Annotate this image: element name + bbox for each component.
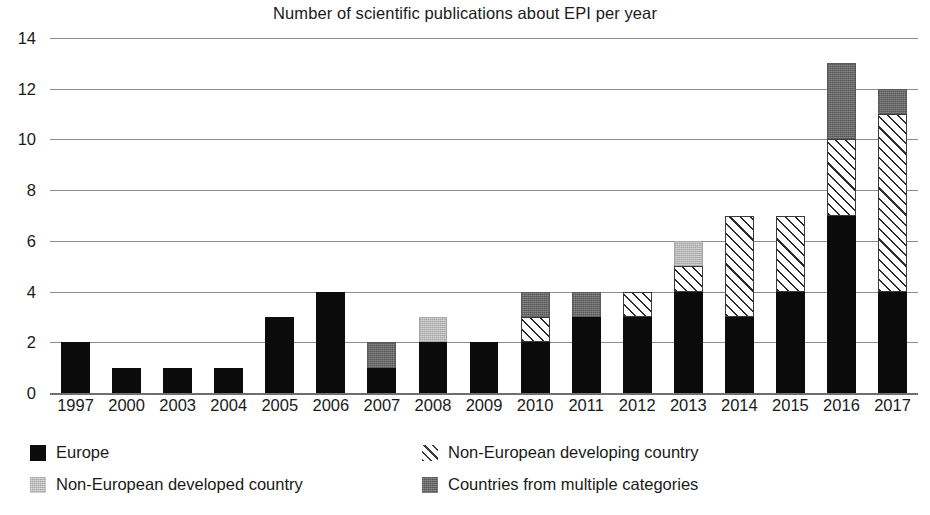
bar-2004[interactable] — [214, 368, 243, 393]
x-axis-tick-2013: 2013 — [663, 396, 714, 422]
bar-2016[interactable] — [827, 63, 856, 393]
bar-segment-developing-2017 — [878, 114, 907, 292]
x-axis-tick-1997: 1997 — [50, 396, 101, 422]
bar-segment-europe-2017 — [878, 292, 907, 393]
x-axis-tick-2014: 2014 — [714, 396, 765, 422]
x-axis-tick-2004: 2004 — [203, 396, 254, 422]
y-axis-tick-4: 4 — [27, 282, 36, 301]
bar-segment-europe-2013 — [674, 292, 703, 393]
legend-item-non-european-developed-country: Non-European developed country — [30, 475, 303, 494]
x-axis-tick-2003: 2003 — [152, 396, 203, 422]
bar-segment-europe-2005 — [265, 317, 294, 393]
bar-segment-developing-2012 — [623, 292, 652, 317]
x-axis-tick-2017: 2017 — [867, 396, 918, 422]
bar-segment-europe-2010 — [521, 342, 550, 393]
y-axis-tick-0: 0 — [27, 384, 36, 403]
bar-segment-europe-2012 — [623, 317, 652, 393]
bar-segment-europe-2006 — [316, 292, 345, 393]
bar-segment-developing-2013 — [674, 266, 703, 291]
bar-segment-multiple-2016 — [827, 63, 856, 139]
bar-2012[interactable] — [623, 292, 652, 393]
x-axis-tick-2007: 2007 — [356, 396, 407, 422]
bar-segment-europe-2016 — [827, 216, 856, 394]
bar-segment-europe-2008 — [419, 342, 448, 393]
bar-2013[interactable] — [674, 241, 703, 393]
bar-slot-2008 — [407, 38, 458, 393]
bar-slot-2010 — [510, 38, 561, 393]
bar-segment-europe-2015 — [776, 292, 805, 393]
y-axis-tick-8: 8 — [27, 181, 36, 200]
bar-2014[interactable] — [725, 216, 754, 393]
bar-2006[interactable] — [316, 292, 345, 393]
bar-segment-multiple-2017 — [878, 89, 907, 114]
y-axis-tick-10: 10 — [18, 130, 36, 149]
chart-container: Number of scientific publications about … — [0, 0, 930, 515]
bar-2015[interactable] — [776, 216, 805, 393]
bar-2003[interactable] — [163, 368, 192, 393]
bar-slot-2006 — [305, 38, 356, 393]
bar-segment-europe-2014 — [725, 317, 754, 393]
bar-2008[interactable] — [419, 317, 448, 393]
y-axis-tick-14: 14 — [18, 29, 36, 48]
legend-label-non-european-developing-country: Non-European developing country — [448, 443, 698, 462]
bar-segment-europe-2009 — [470, 342, 499, 393]
bar-slot-2009 — [459, 38, 510, 393]
x-axis-tick-2012: 2012 — [612, 396, 663, 422]
x-axis-tick-2008: 2008 — [407, 396, 458, 422]
bar-slot-2017 — [867, 38, 918, 393]
bar-2000[interactable] — [112, 368, 141, 393]
legend-swatch-developed-icon — [30, 477, 46, 493]
legend-swatch-europe-icon — [30, 445, 46, 461]
gridline-0 — [50, 393, 918, 395]
bar-segment-developing-2010 — [521, 317, 550, 342]
legend-swatch-developing-icon — [422, 445, 438, 461]
bar-segment-europe-1997 — [61, 342, 90, 393]
bar-segment-multiple-2007 — [367, 342, 396, 367]
x-axis-tick-2010: 2010 — [510, 396, 561, 422]
x-axis-tick-2015: 2015 — [765, 396, 816, 422]
bar-segment-multiple-2011 — [572, 292, 601, 317]
chart-title: Number of scientific publications about … — [0, 4, 930, 23]
bar-group — [50, 38, 918, 393]
bar-segment-multiple-2010 — [521, 292, 550, 317]
x-axis-tick-2009: 2009 — [459, 396, 510, 422]
bar-slot-2015 — [765, 38, 816, 393]
bar-segment-europe-2007 — [367, 368, 396, 393]
bar-2009[interactable] — [470, 342, 499, 393]
bar-2007[interactable] — [367, 342, 396, 393]
bar-slot-2005 — [254, 38, 305, 393]
bar-segment-europe-2003 — [163, 368, 192, 393]
bar-slot-2012 — [612, 38, 663, 393]
y-axis-tick-labels: 02468101214 — [0, 38, 44, 393]
x-axis-tick-2005: 2005 — [254, 396, 305, 422]
bar-2017[interactable] — [878, 89, 907, 393]
legend-item-europe: Europe — [30, 443, 109, 462]
bar-slot-2014 — [714, 38, 765, 393]
x-axis-tick-2016: 2016 — [816, 396, 867, 422]
bar-slot-2003 — [152, 38, 203, 393]
y-axis-tick-12: 12 — [18, 79, 36, 98]
x-axis-tick-2011: 2011 — [561, 396, 612, 422]
legend-swatch-multiple-icon — [422, 477, 438, 493]
bar-segment-developed-2008 — [419, 317, 448, 342]
bar-slot-2013 — [663, 38, 714, 393]
bar-segment-europe-2011 — [572, 317, 601, 393]
bar-segment-europe-2000 — [112, 368, 141, 393]
bar-segment-developing-2014 — [725, 216, 754, 317]
bar-slot-2011 — [561, 38, 612, 393]
bar-1997[interactable] — [61, 342, 90, 393]
plot-area — [50, 38, 918, 393]
x-axis-tick-2006: 2006 — [305, 396, 356, 422]
bar-slot-2007 — [356, 38, 407, 393]
legend-label-europe: Europe — [56, 443, 109, 462]
bar-2005[interactable] — [265, 317, 294, 393]
bar-slot-2004 — [203, 38, 254, 393]
bar-segment-developing-2015 — [776, 216, 805, 292]
legend-item-non-european-developing-country: Non-European developing country — [422, 443, 698, 462]
bar-segment-developing-2016 — [827, 139, 856, 215]
chart-legend: Europe Non-European developing country N… — [30, 440, 910, 506]
legend-label-countries-from-multiple-categories: Countries from multiple categories — [448, 475, 698, 494]
bar-2010[interactable] — [521, 292, 550, 393]
bar-slot-2000 — [101, 38, 152, 393]
bar-2011[interactable] — [572, 292, 601, 393]
